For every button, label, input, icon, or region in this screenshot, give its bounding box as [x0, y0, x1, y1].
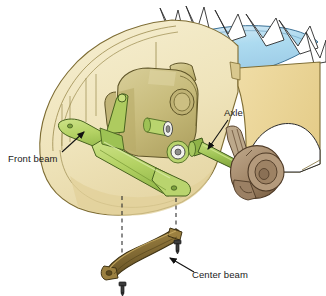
axle-inner-joint-end	[189, 142, 196, 157]
bushing-lower	[167, 141, 189, 163]
transmission-port-inner	[174, 93, 190, 111]
hub-center-bore	[259, 169, 269, 180]
label-front-beam: Front beam	[8, 153, 58, 164]
diagram-canvas: Front beam Axle Center beam	[0, 0, 326, 296]
transmission-highlight-top	[148, 70, 176, 86]
center-beam-left-hole	[106, 271, 112, 276]
front-beam-strut-pivot	[118, 94, 126, 102]
front-beam-left-hole	[67, 124, 72, 128]
front-beam-right-hole	[171, 186, 177, 190]
label-axle: Axle	[224, 107, 243, 118]
label-center-beam: Center beam	[192, 269, 248, 280]
suspension-diagram-figure: Front beam Axle Center beam	[0, 0, 326, 296]
